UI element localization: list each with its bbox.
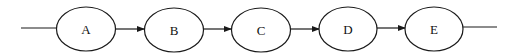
node-c-label: C [257, 23, 266, 38]
node-b-label: B [170, 23, 179, 38]
node-a-label: A [81, 22, 91, 37]
node-d-label: D [343, 22, 352, 37]
diagram-svg: A B C D E [0, 0, 518, 56]
node-a: A [57, 7, 116, 51]
node-c: C [232, 8, 291, 52]
node-b: B [145, 8, 204, 52]
node-e-label: E [430, 22, 438, 37]
node-e: E [405, 7, 463, 51]
flow-diagram: A B C D E [0, 0, 518, 56]
node-d: D [319, 7, 377, 51]
